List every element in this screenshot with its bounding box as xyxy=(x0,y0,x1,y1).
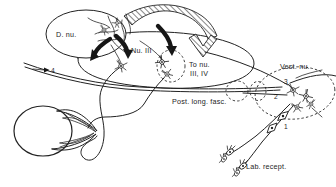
diagram-canvas: D. nu. Nu. III To nu. III, IV Post. long… xyxy=(0,0,336,187)
label-number-1: 1 xyxy=(284,123,288,130)
label-to-nu-line1: To nu. xyxy=(189,60,210,69)
band-body xyxy=(124,5,217,39)
label-to-nu-line2: III, IV xyxy=(190,69,208,78)
label-number-2: 2 xyxy=(274,93,278,100)
ganglion-cell-icon xyxy=(265,121,280,136)
eye-with-muscles xyxy=(14,106,97,156)
fiber4-arrowhead-icon xyxy=(44,68,50,73)
label-vest-nu: Vest. nu. xyxy=(280,62,310,71)
eyeball xyxy=(14,106,72,156)
vestibular-nucleus xyxy=(253,63,336,123)
vestibulo-ocular-fiber xyxy=(205,52,336,85)
label-lab-recept: Lab. recept. xyxy=(246,162,286,171)
band-drop-arrow xyxy=(158,26,171,47)
hair-cell-icon xyxy=(224,146,236,157)
label-d-nu: D. nu. xyxy=(56,30,76,39)
label-post-long-fasc: Post. long. fasc. xyxy=(172,97,227,106)
label-nu-iii: Nu. III xyxy=(131,46,152,55)
label-number-4: 4 xyxy=(51,67,55,74)
post-long-fasc-fibers xyxy=(24,63,287,101)
vestibular-pathway-figure: D. nu. Nu. III To nu. III, IV Post. long… xyxy=(0,0,336,187)
label-number-3: 3 xyxy=(284,78,288,85)
